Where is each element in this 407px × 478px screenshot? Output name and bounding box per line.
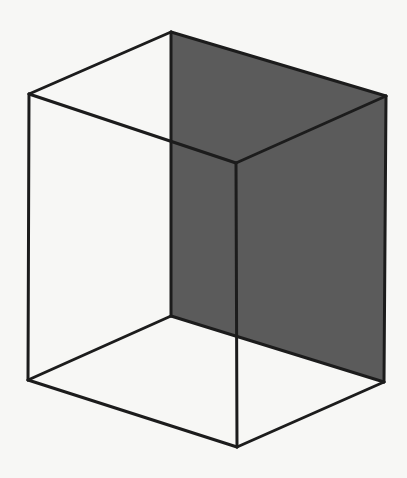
edge-front-bottom-right-to-front-bottom-left <box>28 380 237 447</box>
edge-back-top-left-to-front-top-left <box>29 32 171 94</box>
edge-front-top-right-to-front-bottom-right <box>236 163 237 447</box>
edge-back-bottom-left-to-front-bottom-left <box>28 316 171 380</box>
cube-diagram <box>0 0 407 478</box>
edge-front-bottom-left-to-front-top-left <box>28 94 29 380</box>
edge-back-bottom-right-to-front-bottom-right <box>237 382 384 447</box>
edge-back-top-right-to-back-bottom-right <box>384 96 386 382</box>
shaded-back-face <box>171 32 386 382</box>
